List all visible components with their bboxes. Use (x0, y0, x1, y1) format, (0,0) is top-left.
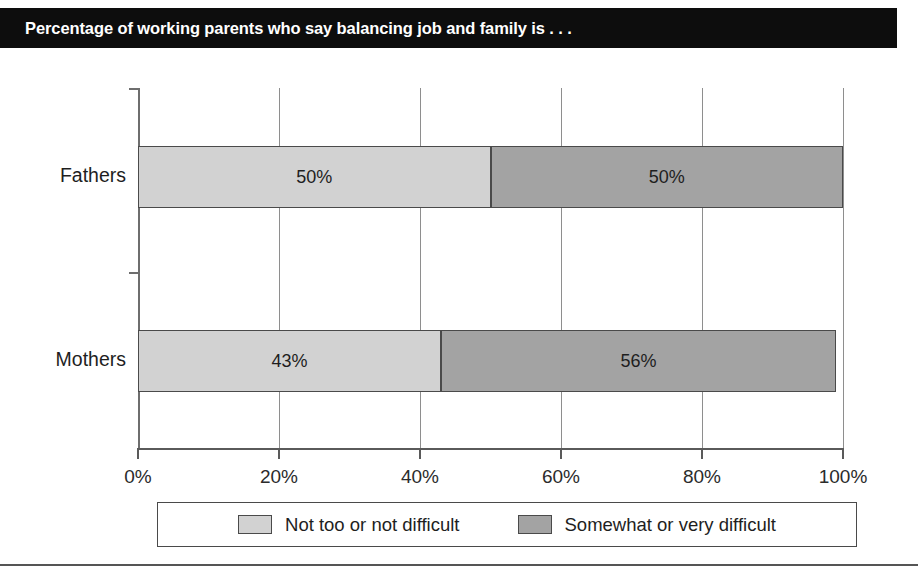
bar-segment: 50% (138, 146, 491, 208)
gridline (279, 88, 280, 448)
x-axis-tick (137, 448, 139, 459)
chart-title-banner: Percentage of working parents who say ba… (0, 8, 897, 48)
bar-value-label: 50% (296, 167, 332, 188)
page-title: Percentage of working parents who say ba… (0, 19, 572, 38)
bar-segment: 43% (138, 330, 441, 392)
category-label-mothers: Mothers (6, 348, 126, 371)
x-axis-tick-label: 40% (401, 466, 439, 488)
bar-value-label: 56% (621, 351, 657, 372)
gridline (420, 88, 421, 448)
legend-swatch (518, 515, 552, 534)
x-axis-tick-label: 60% (542, 466, 580, 488)
x-axis-tick-label: 0% (124, 466, 151, 488)
y-axis-tick (129, 88, 139, 90)
legend-item: Not too or not difficult (238, 514, 459, 536)
legend-item: Somewhat or very difficult (518, 514, 776, 536)
x-axis-tick (701, 448, 703, 459)
bar-value-label: 43% (272, 351, 308, 372)
x-axis-tick (560, 448, 562, 459)
gridline (843, 88, 844, 448)
bar-segment: 50% (491, 146, 844, 208)
x-axis-tick-label: 100% (819, 466, 868, 488)
x-axis-tick (278, 448, 280, 459)
chart-plot-area: 0%20%40%60%80%100% 50%50%43%56% (138, 88, 843, 448)
category-label-fathers: Fathers (6, 164, 126, 187)
legend-label: Somewhat or very difficult (565, 514, 776, 536)
y-axis-tick (129, 272, 139, 274)
legend-label: Not too or not difficult (285, 514, 459, 536)
gridline (561, 88, 562, 448)
x-axis-tick (419, 448, 421, 459)
x-axis-tick-label: 80% (683, 466, 721, 488)
y-axis-line (138, 88, 140, 448)
x-axis-line (138, 448, 844, 450)
chart-legend: Not too or not difficultSomewhat or very… (157, 502, 857, 547)
legend-swatch (238, 515, 272, 534)
bar-value-label: 50% (649, 167, 685, 188)
x-axis-tick (842, 448, 844, 459)
footer-divider (0, 564, 918, 566)
x-axis-tick-label: 20% (260, 466, 298, 488)
bar-segment: 56% (441, 330, 836, 392)
gridline (702, 88, 703, 448)
